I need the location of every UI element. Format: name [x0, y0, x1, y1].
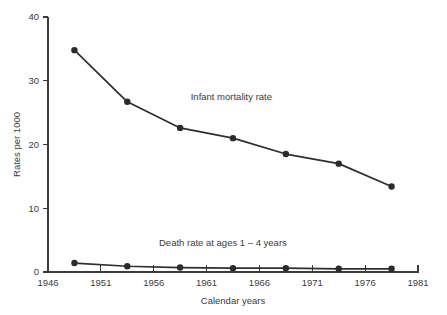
series-annotations: Infant mortality rateDeath rate at ages … [159, 91, 287, 248]
chart-container: 010203040 194619511956196119661971197619… [0, 0, 447, 315]
x-tick-label: 1961 [196, 277, 217, 288]
x-tick-label: 1956 [143, 277, 164, 288]
x-tick-label: 1971 [302, 277, 323, 288]
series-label-1: Death rate at ages 1 – 4 years [159, 237, 287, 248]
data-point [71, 47, 77, 53]
y-tick-label: 30 [28, 75, 39, 86]
series-label-0: Infant mortality rate [191, 91, 272, 102]
x-tick-label: 1966 [249, 277, 270, 288]
y-tick-label: 20 [28, 139, 39, 150]
data-point [124, 263, 130, 269]
axes-group [43, 17, 418, 272]
data-point [230, 265, 236, 271]
y-axis-title: Rates per 1000 [11, 112, 22, 177]
data-point [177, 125, 183, 131]
data-point [177, 264, 183, 270]
data-point [283, 265, 289, 271]
x-axis-tick-labels: 19461951195619611966197119761981 [37, 277, 428, 288]
x-tick-label: 1981 [407, 277, 428, 288]
data-point [388, 266, 394, 272]
y-axis-ticks [43, 17, 48, 272]
y-tick-label: 0 [34, 266, 39, 277]
y-tick-label: 40 [28, 11, 39, 22]
axis-frame [48, 17, 418, 272]
data-point [283, 151, 289, 157]
series-0 [71, 47, 395, 190]
series-1 [71, 260, 395, 272]
data-point [124, 99, 130, 105]
data-point [388, 183, 394, 189]
x-tick-label: 1976 [355, 277, 376, 288]
x-tick-label: 1946 [37, 277, 58, 288]
y-tick-label: 10 [28, 203, 39, 214]
y-axis-tick-labels: 010203040 [28, 11, 39, 277]
data-point [336, 266, 342, 272]
line-chart: 010203040 194619511956196119661971197619… [0, 0, 447, 315]
x-axis-title: Calendar years [201, 295, 266, 306]
x-tick-label: 1951 [90, 277, 111, 288]
data-point [336, 160, 342, 166]
data-point [71, 260, 77, 266]
series-line [74, 50, 391, 186]
data-point [230, 135, 236, 141]
